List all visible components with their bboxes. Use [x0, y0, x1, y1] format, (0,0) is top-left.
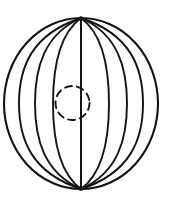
meridian-right-3	[81, 18, 109, 189]
meridian-right-2	[81, 18, 127, 189]
diagram-canvas	[0, 0, 169, 207]
meridian-left-3	[53, 18, 81, 189]
north-pole-node	[79, 16, 83, 20]
meridian-left-2	[35, 18, 81, 189]
core-dashed-circle	[56, 86, 90, 120]
south-pole-node	[79, 186, 84, 191]
sphere-meridian-diagram	[0, 0, 169, 207]
